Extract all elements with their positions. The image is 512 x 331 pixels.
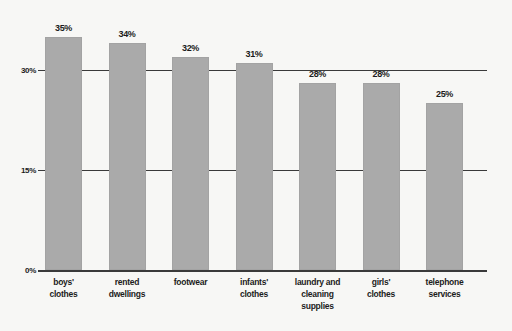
x-axis-category-label: telephoneservices [412, 276, 478, 300]
category-label-line: telephone [412, 276, 478, 288]
y-axis-tick-label: 30% [21, 66, 36, 75]
x-axis-category-label: boys'clothes [31, 276, 97, 300]
category-label-line: cleaning [285, 288, 351, 300]
bar[interactable] [299, 83, 336, 270]
bar-value-label: 31% [236, 49, 273, 59]
bar-value-label: 28% [299, 69, 336, 79]
y-axis-tick-label: 0% [25, 266, 36, 275]
x-axis-category-label: laundry andcleaningsupplies [285, 276, 351, 312]
category-label-line: footwear [158, 276, 224, 288]
category-label-line: rented [94, 276, 160, 288]
y-tick-mark-30 [38, 70, 45, 71]
bar-value-label: 34% [109, 29, 146, 39]
x-axis-category-label: infants'clothes [221, 276, 287, 300]
category-label-line: services [412, 288, 478, 300]
x-axis-baseline [38, 270, 487, 272]
category-label-line: dwellings [94, 288, 160, 300]
bar-value-label: 28% [363, 69, 400, 79]
category-label-line: infants' [221, 276, 287, 288]
bar-value-label: 25% [426, 89, 463, 99]
y-tick-mark-15 [38, 170, 45, 171]
plot-area: 0%15%30%35%boys'clothes34%renteddwelling… [0, 0, 512, 331]
category-label-line: girls' [348, 276, 414, 288]
category-label-line: clothes [221, 288, 287, 300]
category-label-line: boys' [31, 276, 97, 288]
bar[interactable] [45, 37, 82, 270]
x-axis-category-label: renteddwellings [94, 276, 160, 300]
bar[interactable] [363, 83, 400, 270]
category-label-line: laundry and [285, 276, 351, 288]
x-axis-category-label: footwear [158, 276, 224, 288]
bar[interactable] [109, 43, 146, 270]
bar[interactable] [236, 63, 273, 270]
bar-value-label: 35% [45, 23, 82, 33]
x-axis-category-label: girls'clothes [348, 276, 414, 300]
category-label-line: supplies [285, 300, 351, 312]
category-label-line: clothes [31, 288, 97, 300]
category-label-line: clothes [348, 288, 414, 300]
bar[interactable] [172, 57, 209, 270]
y-axis-tick-label: 15% [21, 166, 36, 175]
bar-chart: 0%15%30%35%boys'clothes34%renteddwelling… [0, 0, 512, 331]
bar[interactable] [426, 103, 463, 270]
bar-value-label: 32% [172, 43, 209, 53]
